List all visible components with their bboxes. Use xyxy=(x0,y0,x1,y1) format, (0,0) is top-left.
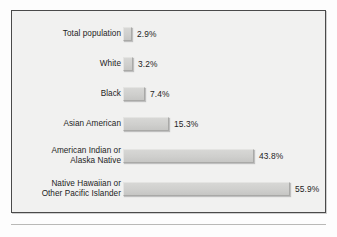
figure: Total population 2.9% White 3.2% Black 7… xyxy=(0,0,337,237)
plot-area: Total population 2.9% White 3.2% Black 7… xyxy=(12,11,325,212)
bar-value-label: 3.2% xyxy=(138,59,158,69)
bar-value-label: 55.9% xyxy=(295,184,319,194)
bar-value-label: 2.9% xyxy=(137,29,157,39)
bar-category-label: Total population xyxy=(0,29,121,39)
bar-row: American Indian or Alaska Native 43.8% xyxy=(12,141,325,171)
bar-category-label: Asian American xyxy=(0,119,121,129)
bar-row: Black 7.4% xyxy=(12,79,325,109)
bar-row: Asian American 15.3% xyxy=(12,109,325,139)
bar xyxy=(123,27,132,41)
bar-row: Total population 2.9% xyxy=(12,19,325,49)
bar-track: 3.2% xyxy=(123,57,323,71)
bar-value-label: 43.8% xyxy=(259,151,283,161)
bar-track: 55.9% xyxy=(123,182,323,196)
bar xyxy=(123,182,290,196)
bar-category-label: White xyxy=(0,59,121,69)
bar-track: 15.3% xyxy=(123,117,323,131)
bar xyxy=(123,117,169,131)
bar-track: 7.4% xyxy=(123,87,323,101)
bar-category-label: Native Hawaiian or Other Pacific Islande… xyxy=(0,179,121,198)
bar-row: White 3.2% xyxy=(12,49,325,79)
bar-track: 43.8% xyxy=(123,149,323,163)
bar-category-label: American Indian or Alaska Native xyxy=(0,146,121,165)
bar-value-label: 15.3% xyxy=(174,119,198,129)
bar-row: Native Hawaiian or Other Pacific Islande… xyxy=(12,174,325,204)
bar-value-label: 7.4% xyxy=(150,89,170,99)
bar xyxy=(123,87,145,101)
chart-frame: Total population 2.9% White 3.2% Black 7… xyxy=(11,10,326,213)
bar-track: 2.9% xyxy=(123,27,323,41)
bar xyxy=(123,149,254,163)
footer-rule xyxy=(11,224,326,225)
bar-category-label: Black xyxy=(0,89,121,99)
bar xyxy=(123,57,133,71)
